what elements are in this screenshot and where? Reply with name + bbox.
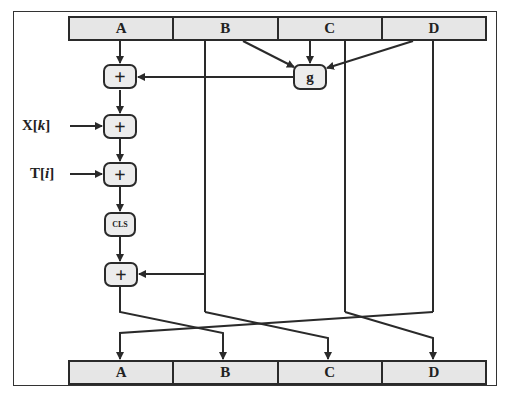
register-cell-b: B [174,362,278,383]
wire-d-to-a-out [120,312,433,359]
register-cell-b: B [174,18,278,39]
wires [0,0,509,401]
constant-input-label: T[i] [30,165,54,182]
wire-adder4-to-b-out [120,286,223,359]
wire-c-to-d-out [345,312,433,359]
register-cell-a: A [70,362,174,383]
register-cell-d: D [383,362,485,383]
md5-round-diagram: A B C D + g + + CLS + X[k] T[i] A B C D [0,0,509,401]
adder-node-4: + [104,262,138,287]
wire-b-to-g [243,41,294,67]
adder-node-3: + [103,162,137,187]
g-function-node: g [293,64,327,90]
input-register: A B C D [68,16,487,41]
register-cell-a: A [70,18,174,39]
output-register: A B C D [68,360,487,385]
adder-node-1: + [103,64,137,89]
register-cell-d: D [383,18,485,39]
circular-left-shift-node: CLS [104,212,136,237]
adder-node-2: + [103,114,137,139]
register-cell-c: C [279,18,383,39]
register-cell-c: C [279,362,383,383]
message-word-input-label: X[k] [22,117,50,134]
wire-d-to-g [327,41,413,68]
